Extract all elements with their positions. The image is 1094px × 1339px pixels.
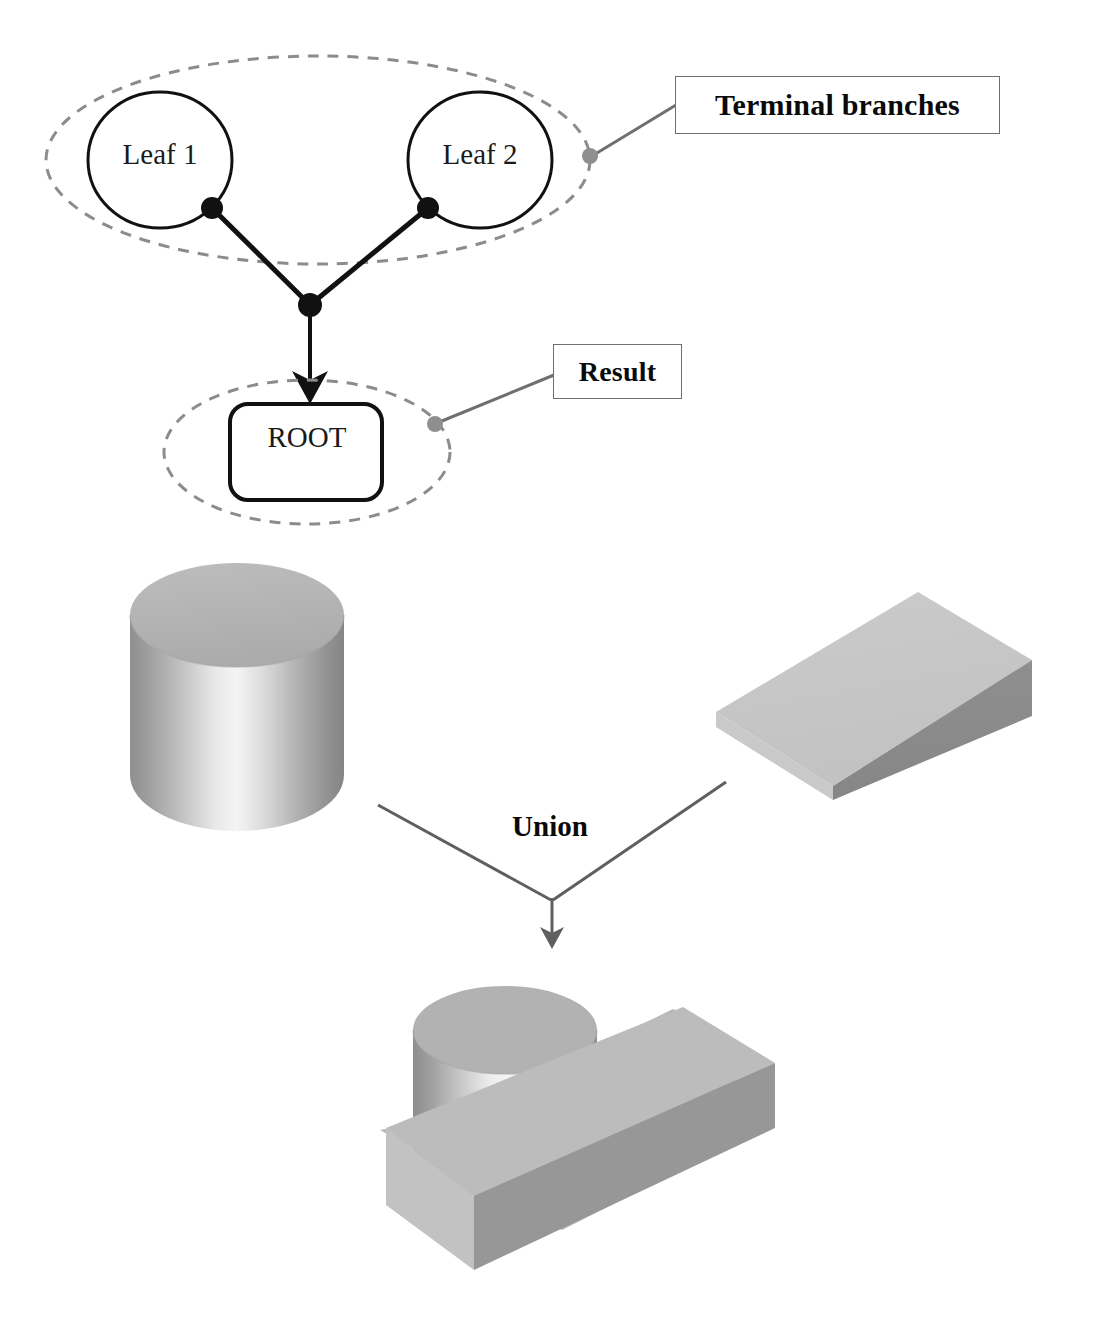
- terminal-branches-anchor-dot: [582, 148, 598, 164]
- terminal-branches-callout-text: Terminal branches: [715, 88, 960, 122]
- block-solid: [716, 592, 1032, 800]
- result-callout[interactable]: Result: [553, 344, 682, 399]
- union-operation-label: Union: [470, 810, 630, 843]
- leaf2-connection-node: [417, 197, 439, 219]
- result-anchor-dot: [427, 416, 443, 432]
- leaf1-connection-node: [201, 197, 223, 219]
- leaf2-label: Leaf 2: [420, 138, 540, 171]
- union-result-solid: [380, 986, 775, 1270]
- terminal-branches-leader-line: [592, 105, 676, 156]
- cylinder-solid: [130, 563, 344, 831]
- branch-edge-leaf2: [310, 208, 428, 305]
- leaf1-label: Leaf 1: [100, 138, 220, 171]
- result-callout-text: Result: [579, 356, 656, 388]
- result-leader-line: [437, 375, 554, 423]
- root-label: ROOT: [232, 421, 382, 454]
- terminal-branches-callout[interactable]: Terminal branches: [675, 76, 1000, 134]
- diagram-canvas: [0, 0, 1094, 1339]
